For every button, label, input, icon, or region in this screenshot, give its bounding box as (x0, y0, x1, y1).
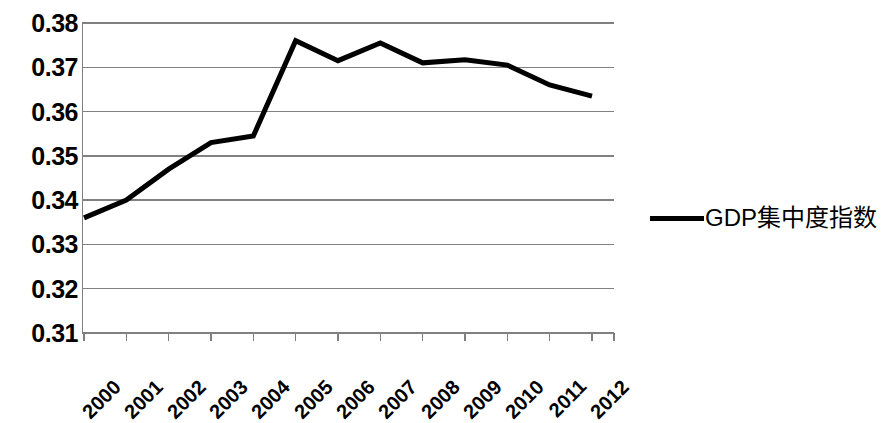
y-axis-tick-label: 0.35 (6, 143, 78, 168)
y-axis-tick-label: 0.34 (6, 188, 78, 213)
series-line (84, 41, 592, 218)
plot-area (82, 0, 616, 401)
y-axis-tick-label: 0.38 (6, 11, 78, 36)
data-series-gdp-concentration-index (82, 0, 616, 401)
legend-line-swatch (650, 216, 704, 221)
legend: GDP集中度指数 (650, 203, 877, 233)
y-axis-tick-label: 0.32 (6, 276, 78, 301)
y-axis-tick-label: 0.33 (6, 232, 78, 257)
y-axis-tick-label: 0.36 (6, 99, 78, 124)
y-axis-tick-label: 0.37 (6, 55, 78, 80)
y-axis-tick-labels: 0.380.370.360.350.340.330.320.31 (0, 0, 78, 401)
legend-item-label: GDP集中度指数 (704, 206, 877, 230)
y-axis-tick-label: 0.31 (6, 321, 78, 346)
